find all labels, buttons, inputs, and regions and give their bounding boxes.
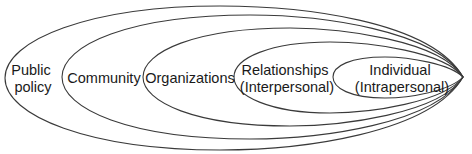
- socio-ecological-model-diagram: Public policy Community Organizations Re…: [0, 0, 472, 154]
- label-relationships: Relationships (Interpersonal): [240, 62, 334, 95]
- label-individual: Individual (Intrapersonal): [355, 62, 449, 95]
- label-organizations: Organizations: [145, 70, 234, 86]
- label-public-policy: Public policy: [11, 62, 55, 95]
- label-community: Community: [67, 70, 141, 86]
